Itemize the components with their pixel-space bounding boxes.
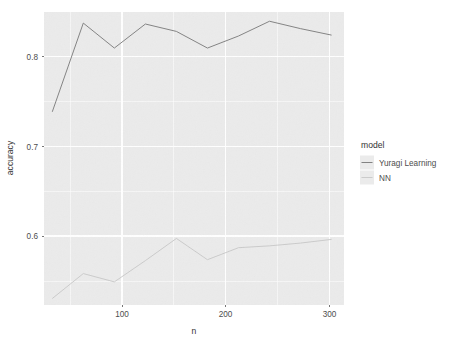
x-tick-label-0: 100 xyxy=(115,310,129,319)
plot-panel xyxy=(44,12,344,305)
line-chart: 0.6 0.7 0.8 accuracy 100 200 300 n model… xyxy=(0,0,450,343)
x-tick-label-2: 300 xyxy=(323,310,337,319)
y-tick-label-0: 0.6 xyxy=(27,232,39,241)
y-axis-title: accuracy xyxy=(5,140,15,175)
legend-label-yuragi: Yuragi Learning xyxy=(379,159,437,168)
legend-label-nn: NN xyxy=(379,174,391,183)
panel-background xyxy=(44,12,344,305)
x-tick-label-1: 200 xyxy=(219,310,233,319)
y-tick-label-1: 0.7 xyxy=(27,143,39,152)
legend-item-yuragi-learning[interactable]: Yuragi Learning xyxy=(360,156,437,170)
legend-title: model xyxy=(361,140,384,150)
x-axis-title: n xyxy=(192,326,197,336)
y-tick-label-2: 0.8 xyxy=(27,53,39,62)
chart-container: 0.6 0.7 0.8 accuracy 100 200 300 n model… xyxy=(0,0,450,343)
